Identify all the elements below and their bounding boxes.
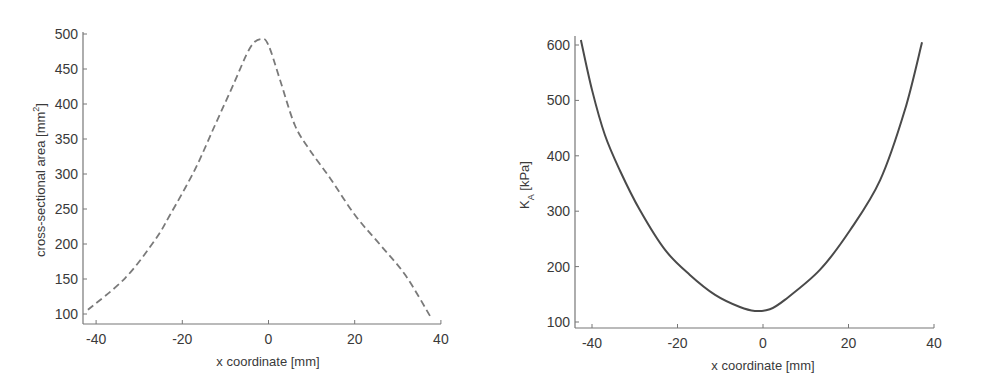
x-tick-label: -20 (667, 335, 687, 351)
y-tick-label: 300 (547, 203, 571, 219)
x-tick-label: 40 (926, 335, 942, 351)
y-tick-label: 200 (55, 236, 79, 252)
left-axes: -40-2002040100150200250300350400450500 (55, 26, 449, 347)
x-tick-label: -40 (86, 331, 106, 347)
data-curve (88, 39, 430, 316)
cross-sectional-area-curve (88, 39, 430, 316)
x-tick-label: 40 (433, 331, 449, 347)
figure: -40-2002040100150200250300350400450500 x… (0, 0, 989, 389)
right-y-axis-label: KA [kPa] (517, 161, 536, 209)
right-axes: -40-2002040100200300400500600 (547, 36, 942, 351)
y-tick-label: 400 (55, 96, 79, 112)
x-tick-label: 0 (759, 335, 767, 351)
right-x-axis-label: x coordinate [mm] (711, 358, 814, 373)
x-tick-label: -20 (172, 331, 192, 347)
x-tick-label: 20 (347, 331, 363, 347)
left-x-axis-label: x coordinate [mm] (216, 354, 319, 369)
y-tick-label: 500 (55, 26, 79, 42)
x-tick-label: 20 (841, 335, 857, 351)
y-tick-label: 150 (55, 271, 79, 287)
y-tick-label: 500 (547, 92, 571, 108)
x-tick-label: -40 (582, 335, 602, 351)
y-tick-label: 450 (55, 61, 79, 77)
data-curve (581, 40, 922, 311)
ka-curve (581, 40, 922, 311)
x-tick-label: 0 (265, 331, 273, 347)
ka-chart: -40-2002040100200300400500600 x coordina… (517, 36, 942, 373)
y-tick-label: 350 (55, 131, 79, 147)
y-tick-label: 600 (547, 37, 571, 53)
y-tick-label: 100 (55, 306, 79, 322)
y-tick-label: 300 (55, 166, 79, 182)
y-tick-label: 200 (547, 259, 571, 275)
y-tick-label: 400 (547, 148, 571, 164)
y-tick-label: 250 (55, 201, 79, 217)
left-y-axis-label: cross-sectional area [mm2] (31, 103, 48, 257)
cross-sectional-area-chart: -40-2002040100150200250300350400450500 x… (31, 26, 449, 369)
y-tick-label: 100 (547, 314, 571, 330)
